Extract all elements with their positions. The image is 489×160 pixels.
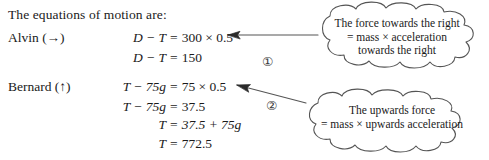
equation-marker-one: ① (262, 54, 273, 69)
equation-rhs: 75 × 0.5 (182, 79, 227, 95)
equals-sign: = (166, 30, 182, 46)
equation-rhs: 772.5 (182, 136, 212, 152)
equation-rhs: 37.5 + 75g (182, 117, 242, 133)
equation-row: T = 37.5 + 75g (108, 117, 241, 133)
equation-rhs: 300 × 0.5 (182, 30, 234, 46)
callout-one-text: The force towards the right = mass × acc… (318, 17, 476, 58)
equation-lhs: D − T (108, 50, 166, 66)
callout-two-line-2: = mass × upwards acceleration (306, 118, 478, 132)
callout-arrowhead-two (237, 85, 251, 92)
actor-label-bernard: Bernard (↑) (8, 79, 71, 95)
equation-lhs: T − 75g (108, 99, 166, 115)
callout-one-line-3: towards the right (318, 44, 476, 58)
equation-lhs: T (108, 117, 166, 133)
equation-row: D − T = 150 (108, 50, 202, 66)
callout-two-line-1: The upwards force (306, 104, 478, 118)
equation-rhs: 37.5 (182, 99, 206, 115)
equation-row: D − T = 300 × 0.5 (108, 30, 233, 46)
worked-solution-figure: The equations of motion are: Alvin (→) B… (0, 0, 489, 160)
callout-one-line-2: = mass × acceleration (318, 31, 476, 45)
intro-text: The equations of motion are: (8, 7, 167, 23)
equation-row: T − 75g = 75 × 0.5 (108, 79, 226, 95)
equation-lhs: D − T (108, 30, 166, 46)
equals-sign: = (166, 99, 182, 115)
equation-lhs: T − 75g (108, 79, 166, 95)
equals-sign: = (166, 50, 182, 66)
equals-sign: = (166, 117, 182, 133)
actor-label-alvin: Alvin (→) (8, 30, 65, 46)
equals-sign: = (166, 136, 182, 152)
equation-marker-two: ② (266, 98, 277, 113)
callout-one-line-1: The force towards the right (318, 17, 476, 31)
equation-lhs: T (108, 136, 166, 152)
callout-two-text: The upwards force = mass × upwards accel… (306, 104, 478, 131)
equation-row: T − 75g = 37.5 (108, 99, 205, 115)
equation-row: T = 772.5 (108, 136, 212, 152)
equation-rhs: 150 (182, 50, 202, 66)
equals-sign: = (166, 79, 182, 95)
